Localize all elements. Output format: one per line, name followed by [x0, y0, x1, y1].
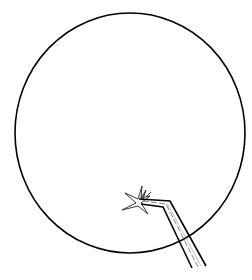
microscope-field-illustration: [0, 0, 252, 280]
tweezers-icon: [139, 199, 206, 268]
field-of-view-circle: [15, 13, 245, 253]
